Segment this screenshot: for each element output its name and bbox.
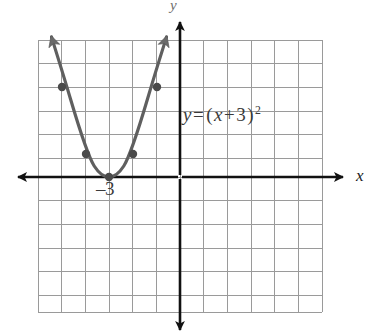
equation-open-paren: ( <box>205 104 214 125</box>
point-marker <box>58 83 66 91</box>
point-marker <box>82 150 90 158</box>
vertex-value-label: –3 <box>96 178 114 200</box>
y-axis-label: y <box>170 0 177 14</box>
equation-close-paren: ) <box>246 104 255 125</box>
graph-figure <box>0 0 374 336</box>
equation-plus: + <box>223 104 236 125</box>
equation-exponent: 2 <box>255 104 261 117</box>
x-axis-label: x <box>356 166 364 186</box>
point-marker <box>129 150 137 158</box>
parabola-left-branch <box>52 37 110 177</box>
point-marker <box>153 83 161 91</box>
equation-lhs: y <box>183 104 192 125</box>
equation-annotation: y=(x+3)2 <box>183 104 261 126</box>
equation-variable: x <box>214 104 223 125</box>
equation-constant: 3 <box>236 104 246 125</box>
parabola-right-branch <box>109 37 167 177</box>
equation-equals: = <box>192 104 205 125</box>
